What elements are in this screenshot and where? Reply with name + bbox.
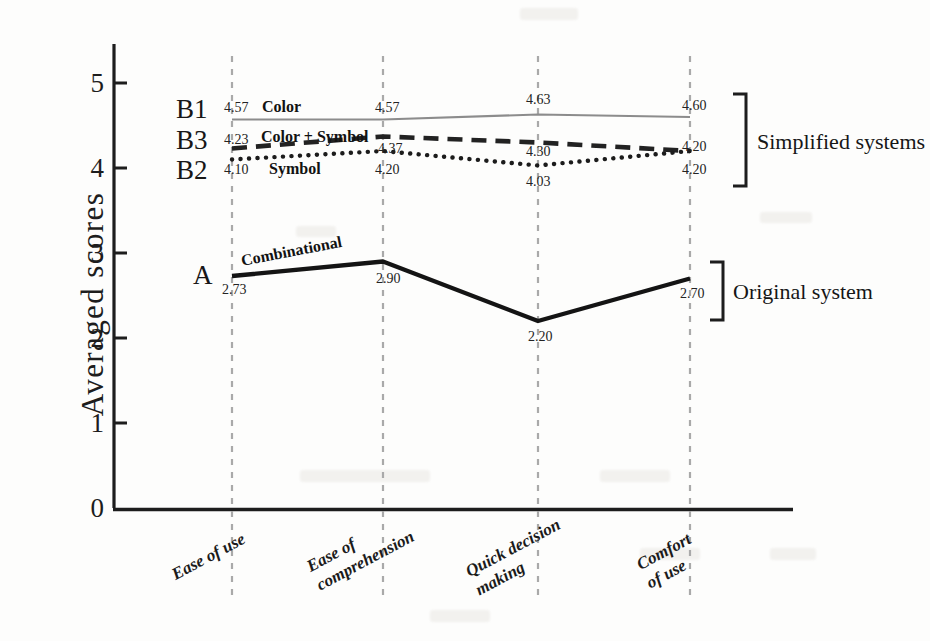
value-label-a-4: 2.70 [680,287,705,301]
series-line-a-combinational [232,262,690,322]
value-label-b2-2: 4.20 [375,163,400,177]
bracket-original-system [710,262,723,320]
y-tick-label-1: 1 [70,410,104,437]
value-label-b1-1: 4.57 [224,101,249,115]
value-label-b3-4: 4.20 [682,140,707,154]
group-label-simplified-systems: Simplified systems [757,131,925,153]
bracket-simplified-systems [733,94,746,186]
series-name-color: Color [262,98,301,116]
y-tick-label-2: 2 [70,325,104,352]
series-key-b1: B1 [176,96,208,123]
chart-page: Averaged scores [0,0,930,641]
series-key-a: A [193,262,213,289]
y-tick-label-0: 0 [70,495,104,522]
value-label-b1-2: 4.57 [375,101,400,115]
y-tick-label-3: 3 [70,240,104,267]
value-label-b3-2: 4.37 [378,142,403,156]
series-name-color-symbol: Color + Symbol [261,128,369,146]
series-key-b3: B3 [176,127,208,154]
value-label-a-1: 2.73 [222,283,247,297]
series-name-symbol: Symbol [269,160,321,178]
value-label-b3-3: 4.30 [526,145,551,159]
value-label-b1-3: 4.63 [526,93,551,107]
y-tick-label-4: 4 [70,155,104,182]
value-label-a-2: 2.90 [376,272,401,286]
group-label-original-system: Original system [733,281,873,303]
chart-plot-area [0,0,930,641]
value-label-b2-1: 4.10 [224,163,249,177]
value-label-b1-4: 4.60 [682,99,707,113]
value-label-a-3: 2.20 [528,330,553,344]
y-tick-label-5: 5 [70,70,104,97]
y-axis-ticks [114,83,127,423]
value-label-b2-4: 4.20 [682,163,707,177]
value-label-b3-1: 4.23 [224,133,249,147]
value-label-b2-3: 4.03 [526,175,551,189]
series-key-b2: B2 [176,157,208,184]
